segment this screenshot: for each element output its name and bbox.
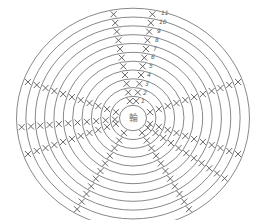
single-crochet-stitch <box>167 176 173 182</box>
single-crochet-stitch <box>235 151 241 157</box>
row-number-label: 4 <box>147 71 151 78</box>
single-crochet-stitch <box>60 139 66 145</box>
single-crochet-stitch <box>226 148 232 154</box>
single-crochet-stitch <box>149 11 155 17</box>
single-crochet-stitch <box>56 121 62 127</box>
single-crochet-stitch <box>138 72 144 78</box>
single-crochet-stitch <box>147 109 153 115</box>
single-crochet-stitch <box>153 153 159 159</box>
single-crochet-stitch <box>51 142 57 148</box>
single-crochet-stitch <box>19 124 25 130</box>
row-number-label: 5 <box>149 62 153 69</box>
row-number-label: 10 <box>159 18 167 25</box>
row-number-label: 8 <box>155 36 159 43</box>
single-crochet-stitch <box>165 127 171 133</box>
single-crochet-stitch <box>191 136 197 142</box>
single-crochet-stitch <box>153 130 159 136</box>
single-crochet-stitch <box>235 79 241 85</box>
single-crochet-stitch <box>69 94 75 100</box>
single-crochet-stitch <box>183 150 189 156</box>
single-crochet-stitch <box>102 160 108 166</box>
single-crochet-stitch <box>191 155 197 161</box>
single-crochet-stitch <box>206 165 212 171</box>
single-crochet-stitch <box>116 137 122 143</box>
single-crochet-stitch <box>93 118 99 124</box>
row-number-label: 9 <box>157 27 161 34</box>
single-crochet-stitch <box>222 175 228 181</box>
single-crochet-stitch <box>144 137 150 143</box>
single-crochet-stitch <box>103 117 109 123</box>
single-crochet-stitch <box>160 135 166 141</box>
single-crochet-stitch <box>87 100 93 106</box>
single-crochet-stitch <box>156 124 162 130</box>
single-crochet-stitch <box>122 72 128 78</box>
single-crochet-stitch <box>104 124 110 130</box>
single-crochet-stitch <box>87 130 93 136</box>
single-crochet-stitch <box>112 20 118 26</box>
single-crochet-stitch <box>25 79 31 85</box>
single-crochet-stitch <box>113 109 119 115</box>
single-crochet-stitch <box>95 127 101 133</box>
single-crochet-stitch <box>43 85 49 91</box>
single-crochet-stitch <box>158 160 164 166</box>
single-crochet-stitch <box>181 199 187 205</box>
single-crochet-stitch <box>140 63 146 69</box>
single-crochet-stitch <box>74 206 80 212</box>
single-crochet-stitch <box>121 130 127 136</box>
single-crochet-stitch <box>95 103 101 109</box>
single-crochet-stitch <box>93 176 99 182</box>
row-number-label: 6 <box>151 53 155 60</box>
single-crochet-stitch <box>143 46 149 52</box>
single-crochet-stitch <box>173 100 179 106</box>
single-crochet-stitch <box>98 168 104 174</box>
single-crochet-stitch <box>146 29 152 35</box>
single-crochet-stitch <box>78 97 84 103</box>
single-crochet-stitch <box>79 199 85 205</box>
single-crochet-stitch <box>145 37 151 43</box>
single-crochet-stitch <box>84 119 90 125</box>
single-crochet-stitch <box>111 11 117 17</box>
single-crochet-stitch <box>209 88 215 94</box>
single-crochet-stitch <box>168 140 174 146</box>
single-crochet-stitch <box>83 191 89 197</box>
row-number-label: 11 <box>161 9 169 16</box>
single-crochet-stitch <box>112 145 118 151</box>
single-crochet-stitch <box>125 89 131 95</box>
single-crochet-stitch <box>148 20 154 26</box>
single-crochet-stitch <box>65 120 71 126</box>
single-crochet-stitch <box>182 97 188 103</box>
single-crochet-stitch <box>37 123 43 129</box>
single-crochet-stitch <box>214 170 220 176</box>
single-crochet-stitch <box>119 55 125 61</box>
crochet-chart: 1234567891011 輪 <box>0 0 267 220</box>
single-crochet-stitch <box>113 121 119 127</box>
stitch-marks <box>19 11 241 212</box>
single-crochet-stitch <box>34 148 40 154</box>
single-crochet-stitch <box>173 130 179 136</box>
row-number-label: 7 <box>153 45 157 52</box>
single-crochet-stitch <box>115 37 121 43</box>
single-crochet-stitch <box>104 106 110 112</box>
single-crochet-stitch <box>148 145 154 151</box>
center-ring-label: 輪 <box>129 112 138 123</box>
row-number-label: 2 <box>143 89 147 96</box>
single-crochet-stitch <box>135 89 141 95</box>
single-crochet-stitch <box>172 183 178 189</box>
single-crochet-stitch <box>47 122 53 128</box>
single-crochet-stitch <box>226 82 232 88</box>
row-number-label: 1 <box>141 97 145 104</box>
single-crochet-stitch <box>51 88 57 94</box>
single-crochet-stitch <box>176 145 182 151</box>
single-crochet-stitch <box>120 63 126 69</box>
single-crochet-stitch <box>133 98 139 104</box>
single-crochet-stitch <box>69 136 75 142</box>
single-crochet-stitch <box>88 183 94 189</box>
single-crochet-stitch <box>209 142 215 148</box>
single-crochet-stitch <box>107 153 113 159</box>
single-crochet-stitch <box>200 91 206 97</box>
single-crochet-stitch <box>191 94 197 100</box>
single-crochet-stitch <box>186 206 192 212</box>
single-crochet-stitch <box>114 29 120 35</box>
single-crochet-stitch <box>117 46 123 52</box>
single-crochet-stitch <box>78 133 84 139</box>
